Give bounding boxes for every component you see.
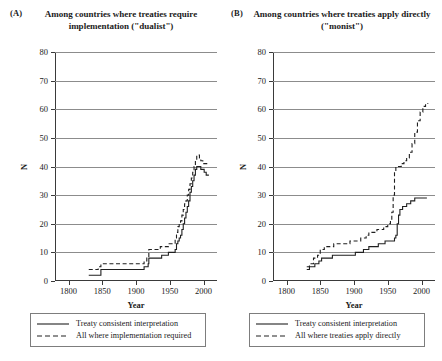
y-axis-tick-label: 20 bbox=[258, 220, 267, 229]
x-axis-tick bbox=[320, 281, 321, 285]
series-line bbox=[89, 155, 209, 269]
y-axis-tick-label: 0 bbox=[44, 277, 48, 286]
panel-a-plot-area: N Year 010203040506070801800185019001950… bbox=[55, 52, 217, 281]
legend-entry: Treaty consistent interpretation bbox=[255, 318, 419, 330]
series-line bbox=[89, 167, 209, 276]
x-axis-tick-label: 2000 bbox=[195, 287, 212, 296]
x-axis-tick-label: 1950 bbox=[379, 287, 396, 296]
x-axis-tick bbox=[422, 281, 423, 285]
panel-b-tag: (B) bbox=[231, 8, 243, 18]
figure-container: (A) Among countries where treaties requi… bbox=[0, 0, 442, 361]
legend-label: All where implementation required bbox=[76, 331, 191, 341]
y-axis-tick-label: 0 bbox=[262, 277, 266, 286]
legend-entry: All where implementation required bbox=[36, 330, 200, 342]
x-axis-tick-label: 1800 bbox=[278, 287, 295, 296]
x-axis-tick bbox=[204, 281, 205, 285]
x-axis-tick bbox=[354, 281, 355, 285]
x-axis-tick-label: 1950 bbox=[161, 287, 178, 296]
legend-label: Treaty consistent interpretation bbox=[295, 319, 397, 329]
series-line bbox=[307, 104, 429, 267]
legend-label: All where treaties apply directly bbox=[295, 331, 401, 341]
y-axis-tick-label: 60 bbox=[258, 105, 267, 114]
y-axis-tick-label: 80 bbox=[40, 48, 49, 57]
y-axis-tick-label: 70 bbox=[258, 76, 267, 85]
panel-b-plot-area: N Year 010203040506070801800185019001950… bbox=[273, 52, 435, 281]
series-layer bbox=[273, 52, 435, 281]
x-axis-tick-label: 1900 bbox=[346, 287, 363, 296]
x-axis-tick bbox=[170, 281, 171, 285]
y-axis-tick-label: 70 bbox=[40, 76, 49, 85]
legend-key-solid-icon bbox=[255, 319, 289, 329]
legend-key-dashed-icon bbox=[36, 331, 70, 341]
y-axis-tick-label: 20 bbox=[40, 220, 49, 229]
y-axis-tick bbox=[269, 281, 273, 282]
panel-b-y-axis-title: N bbox=[238, 163, 248, 169]
y-axis-tick-label: 10 bbox=[40, 248, 49, 257]
legend-entry: All where treaties apply directly bbox=[255, 330, 419, 342]
x-axis-tick bbox=[388, 281, 389, 285]
y-axis-tick-label: 40 bbox=[258, 162, 267, 171]
y-axis-tick-label: 50 bbox=[40, 134, 49, 143]
x-axis-tick bbox=[136, 281, 137, 285]
y-axis-tick-label: 30 bbox=[40, 191, 49, 200]
y-axis-tick bbox=[51, 281, 55, 282]
panel-a-x-axis-title: Year bbox=[55, 300, 217, 310]
panel-b-x-axis-title: Year bbox=[273, 300, 435, 310]
panel-b: (B) Among countries where treaties apply… bbox=[221, 0, 442, 361]
x-axis-tick-label: 2000 bbox=[413, 287, 430, 296]
y-axis-tick-label: 10 bbox=[258, 248, 267, 257]
y-axis-tick-label: 50 bbox=[258, 134, 267, 143]
y-axis-tick-label: 80 bbox=[258, 48, 267, 57]
series-line bbox=[307, 198, 427, 270]
x-axis-tick bbox=[102, 281, 103, 285]
x-axis-tick-label: 1900 bbox=[128, 287, 145, 296]
y-axis-tick-label: 60 bbox=[40, 105, 49, 114]
series-layer bbox=[55, 52, 217, 281]
legend-key-solid-icon bbox=[36, 319, 70, 329]
panel-a: (A) Among countries where treaties requi… bbox=[0, 0, 221, 361]
panel-a-legend: Treaty consistent interpretation All whe… bbox=[30, 313, 206, 347]
legend-key-dashed-icon bbox=[255, 331, 289, 341]
x-axis-tick bbox=[287, 281, 288, 285]
legend-label: Treaty consistent interpretation bbox=[76, 319, 178, 329]
y-axis-tick-label: 40 bbox=[40, 162, 49, 171]
panel-b-title: Among countries where treaties apply dir… bbox=[249, 9, 435, 32]
x-axis-tick-label: 1850 bbox=[94, 287, 111, 296]
legend-entry: Treaty consistent interpretation bbox=[36, 318, 200, 330]
panel-b-legend: Treaty consistent interpretation All whe… bbox=[249, 313, 425, 347]
panel-a-title: Among countries where treaties require i… bbox=[28, 9, 214, 32]
y-axis-tick-label: 30 bbox=[258, 191, 267, 200]
x-axis-tick-label: 1850 bbox=[312, 287, 329, 296]
x-axis-tick-label: 1800 bbox=[60, 287, 77, 296]
panel-a-y-axis-title: N bbox=[19, 163, 29, 169]
panel-a-tag: (A) bbox=[10, 8, 22, 18]
x-axis-tick bbox=[69, 281, 70, 285]
